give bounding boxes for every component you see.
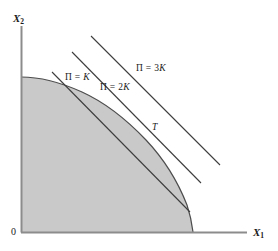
feasible-region-shape (21, 77, 193, 232)
isoprofit-label-pi-3k: Π = 3K (136, 64, 166, 74)
x-axis-label: X1 (253, 227, 264, 238)
production-frontier-figure: X2 X1 0 Π = K Π = 2K Π = 3K T (0, 0, 278, 251)
isoprofit-label-pi-k-prefix: Π = (65, 72, 83, 82)
y-axis-label-subscript: 2 (20, 17, 24, 26)
isoprofit-label-pi-2k-prefix: Π = 2 (100, 82, 123, 92)
origin-label: 0 (11, 227, 16, 237)
tangency-point-label: T (152, 123, 157, 133)
isoprofit-label-pi-k-suffix: K (83, 72, 90, 82)
isoprofit-label-pi-k: Π = K (65, 73, 90, 83)
isoprofit-label-pi-3k-prefix: Π = 3 (136, 63, 159, 73)
y-axis-label: X2 (13, 13, 24, 24)
figure-canvas (0, 0, 278, 251)
isoprofit-label-pi-2k: Π = 2K (100, 83, 130, 93)
x-axis-label-subscript: 1 (260, 231, 264, 240)
isoprofit-label-pi-3k-suffix: K (159, 63, 166, 73)
isoprofit-label-pi-2k-suffix: K (123, 82, 130, 92)
